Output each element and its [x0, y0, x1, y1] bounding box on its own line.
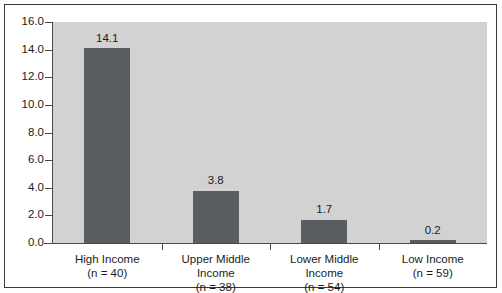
- x-tick-mark: [270, 244, 271, 250]
- y-tick-mark: [45, 243, 52, 244]
- x-category-sample-size: (n = 54): [270, 280, 379, 293]
- x-category-sample-size: (n = 59): [379, 266, 488, 280]
- y-tick-mark: [45, 188, 52, 189]
- bar-slot: 3.8: [162, 22, 271, 243]
- x-category-sample-size: (n = 38): [162, 280, 271, 293]
- y-tick-mark: [45, 105, 52, 106]
- y-tick-label: 2.0: [4, 209, 44, 221]
- bar: [193, 191, 239, 243]
- y-tick-mark: [45, 50, 52, 51]
- y-tick-mark: [45, 215, 52, 216]
- y-tick-label: 6.0: [4, 154, 44, 166]
- y-tick-mark: [45, 22, 52, 23]
- x-tick-mark: [379, 244, 380, 250]
- x-category-name: Upper Middle Income: [182, 253, 250, 279]
- x-category-label: Lower Middle Income(n = 54): [270, 252, 379, 293]
- y-tick-label: 16.0: [4, 16, 44, 28]
- y-tick-label: 0.0: [4, 237, 44, 249]
- bar: [84, 48, 130, 243]
- y-tick-label: 4.0: [4, 182, 44, 194]
- y-tick-mark: [45, 77, 52, 78]
- y-tick-label: 12.0: [4, 71, 44, 83]
- bar-value-label: 0.2: [425, 225, 441, 237]
- y-tick-mark: [45, 133, 52, 134]
- x-category-name: High Income: [75, 253, 140, 265]
- x-category-label: Low Income(n = 59): [379, 252, 488, 280]
- bar-value-label: 14.1: [96, 33, 118, 45]
- bars-layer: 14.13.81.70.2: [53, 22, 487, 243]
- bar-slot: 14.1: [53, 22, 162, 243]
- x-category-label: High Income(n = 40): [53, 252, 162, 280]
- y-tick-label: 8.0: [4, 127, 44, 139]
- bar-slot: 1.7: [270, 22, 379, 243]
- x-category-name: Low Income: [402, 253, 464, 265]
- x-category-sample-size: (n = 40): [53, 266, 162, 280]
- x-axis-line: [44, 243, 487, 244]
- y-tick-mark: [45, 160, 52, 161]
- x-axis-category-labels: High Income(n = 40)Upper Middle Income(n…: [53, 252, 487, 290]
- x-category-label: Upper Middle Income(n = 38): [162, 252, 271, 293]
- x-tick-mark: [162, 244, 163, 250]
- bar-chart-figure: 16.014.012.010.08.06.04.02.00.0 14.13.81…: [0, 0, 502, 293]
- bar-slot: 0.2: [379, 22, 488, 243]
- x-category-name: Lower Middle Income: [290, 253, 358, 279]
- y-tick-label: 14.0: [4, 44, 44, 56]
- bar-value-label: 1.7: [316, 204, 332, 216]
- bar: [301, 220, 347, 243]
- bar-value-label: 3.8: [208, 175, 224, 187]
- y-tick-label: 10.0: [4, 99, 44, 111]
- bar: [410, 240, 456, 243]
